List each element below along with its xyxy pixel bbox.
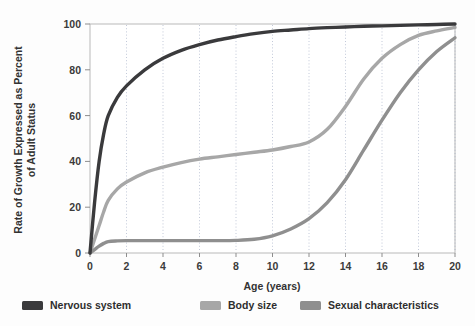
legend-label-nervous-system: Nervous system xyxy=(50,299,131,311)
plot-area xyxy=(90,24,455,253)
growth-rate-line-chart: 02468101214161820 020406080100 Age (year… xyxy=(0,0,475,326)
legend-swatch-body-size xyxy=(200,301,221,310)
y-tick-label: 100 xyxy=(63,18,81,30)
legend-swatch-sexual-characteristics xyxy=(300,301,321,310)
y-tick-label: 40 xyxy=(69,155,81,167)
legend-label-sexual-characteristics: Sexual characteristics xyxy=(328,299,439,311)
y-tick-label: 20 xyxy=(69,201,81,213)
x-tick-label: 16 xyxy=(376,260,388,272)
chart-legend: Nervous systemBody sizeSexual characteri… xyxy=(22,299,439,311)
y-tick-label: 80 xyxy=(69,64,81,76)
x-tick-label: 6 xyxy=(197,260,203,272)
legend-swatch-nervous-system xyxy=(22,301,43,310)
x-tick-label: 18 xyxy=(413,260,425,272)
x-tick-label: 14 xyxy=(340,260,352,272)
x-tick-label: 10 xyxy=(267,260,279,272)
x-tick-label: 12 xyxy=(303,260,315,272)
y-tick-label: 60 xyxy=(69,110,81,122)
x-tick-label: 20 xyxy=(449,260,461,272)
x-tick-label: 8 xyxy=(233,260,239,272)
legend-label-body-size: Body size xyxy=(228,299,277,311)
x-tick-label: 0 xyxy=(87,260,93,272)
chart-container: 02468101214161820 020406080100 Age (year… xyxy=(0,0,475,326)
x-tick-label: 4 xyxy=(160,260,166,272)
y-axis-title-line1: Rate of Growth Expressed as Percent xyxy=(12,46,24,234)
y-axis-title-line2: of Adult Status xyxy=(25,103,37,177)
y-tick-label: 0 xyxy=(75,247,81,259)
x-axis-title: Age (years) xyxy=(243,280,300,292)
x-tick-label: 2 xyxy=(124,260,130,272)
